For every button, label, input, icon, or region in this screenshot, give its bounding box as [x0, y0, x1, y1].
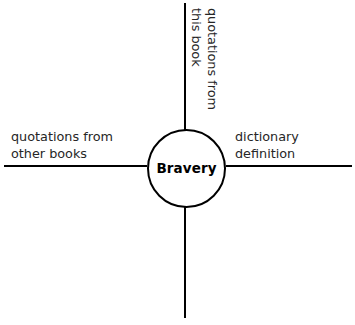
branch-label-right: dictionary definition: [235, 128, 299, 162]
center-node-label: Bravery: [156, 162, 216, 176]
branch-label-top: quotations from this book: [188, 8, 220, 110]
connector-line-bottom: [184, 207, 186, 318]
branch-label-left: quotations from other books: [11, 128, 113, 162]
connector-line-right: [226, 165, 352, 167]
connector-line-left: [4, 165, 147, 167]
center-node: Bravery: [147, 129, 226, 208]
connector-line-top: [184, 3, 186, 130]
diagram-canvas: quotations from this book quotations fro…: [0, 0, 355, 325]
